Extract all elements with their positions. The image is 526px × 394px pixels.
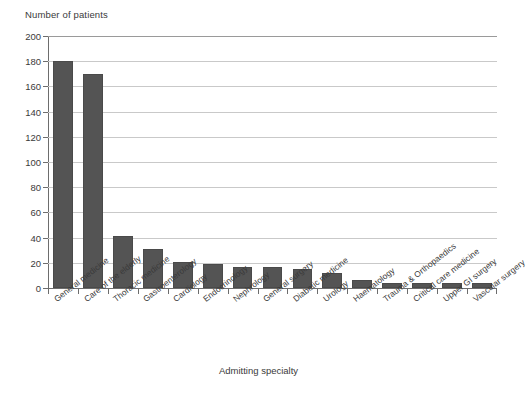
x-tick-mark — [347, 288, 348, 294]
y-tick-label-180: 180 — [25, 56, 41, 67]
y-tick-label-120: 120 — [25, 131, 41, 142]
y-tick-label-0: 0 — [36, 283, 41, 294]
y-tick-mark-100 — [43, 162, 48, 163]
y-tick-label-160: 160 — [25, 81, 41, 92]
gridline-180: 180 — [48, 61, 497, 62]
gridline-140: 140 — [48, 112, 497, 113]
x-tick-mark — [377, 288, 378, 294]
y-tick-mark-40 — [43, 238, 48, 239]
x-axis-ticks — [48, 288, 497, 294]
gridline-80: 80 — [48, 187, 497, 188]
x-axis-title: Admitting specialty — [0, 365, 517, 376]
x-tick-mark — [78, 288, 79, 294]
bar — [233, 267, 253, 288]
y-tick-label-200: 200 — [25, 31, 41, 42]
bar — [293, 269, 313, 288]
y-tick-label-100: 100 — [25, 157, 41, 168]
x-tick-mark — [228, 288, 229, 294]
gridline-60: 60 — [48, 212, 497, 213]
y-tick-mark-80 — [43, 187, 48, 188]
y-tick-mark-60 — [43, 212, 48, 213]
x-tick-mark — [48, 288, 49, 294]
bar — [113, 236, 133, 288]
y-tick-mark-140 — [43, 112, 48, 113]
bar — [322, 273, 342, 288]
x-tick-mark — [138, 288, 139, 294]
y-tick-mark-160 — [43, 86, 48, 87]
x-tick-mark — [437, 288, 438, 294]
plot-area: 020406080100120140160180200 — [48, 36, 497, 288]
x-tick-mark — [287, 288, 288, 294]
y-tick-mark-20 — [43, 263, 48, 264]
bar — [203, 264, 223, 288]
gridline-160: 160 — [48, 86, 497, 87]
y-tick-label-140: 140 — [25, 106, 41, 117]
x-tick-mark — [467, 288, 468, 294]
y-tick-label-20: 20 — [30, 257, 41, 268]
gridline-120: 120 — [48, 137, 497, 138]
y-tick-mark-120 — [43, 137, 48, 138]
y-axis-title: Number of patients — [25, 9, 108, 20]
gridline-200: 200 — [48, 36, 497, 37]
bar — [263, 267, 283, 288]
bar — [83, 74, 103, 288]
bar — [53, 61, 73, 288]
bar — [173, 262, 193, 288]
y-tick-mark-180 — [43, 61, 48, 62]
y-tick-label-40: 40 — [30, 232, 41, 243]
x-tick-mark — [496, 288, 497, 294]
y-tick-mark-200 — [43, 36, 48, 37]
x-tick-mark — [407, 288, 408, 294]
x-tick-mark — [198, 288, 199, 294]
bar — [352, 280, 372, 288]
bar — [143, 249, 163, 288]
x-tick-mark — [168, 288, 169, 294]
x-tick-mark — [317, 288, 318, 294]
y-tick-label-60: 60 — [30, 207, 41, 218]
x-tick-mark — [108, 288, 109, 294]
gridline-100: 100 — [48, 162, 497, 163]
x-tick-mark — [258, 288, 259, 294]
y-tick-label-80: 80 — [30, 182, 41, 193]
